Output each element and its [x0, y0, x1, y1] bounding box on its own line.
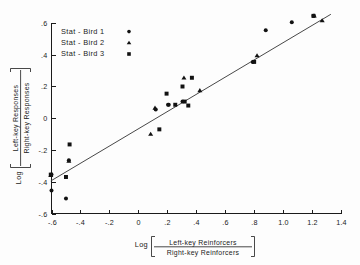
y-tick-label: .4 [41, 51, 47, 60]
data-point-square [173, 103, 177, 107]
data-point-circle [264, 28, 268, 32]
data-point-triangle [148, 132, 153, 136]
x-tick-label: .6 [222, 218, 228, 227]
data-point-square [181, 85, 185, 89]
legend-label: Stat - Bird 2 [61, 38, 105, 47]
x-tick-label: 1.2 [307, 218, 318, 227]
y-tick-label: -.4 [39, 178, 48, 187]
legend-label: Stat - Bird 1 [61, 27, 105, 36]
y-tick-label: -.6 [39, 210, 48, 219]
data-point-circle [166, 103, 170, 107]
x-tick-label: 1.4 [336, 218, 347, 227]
x-tick-label: -.6 [48, 218, 57, 227]
x-tick-label: .2 [164, 218, 170, 227]
x-tick-label: -.2 [105, 218, 114, 227]
data-point-square [312, 14, 316, 18]
legend: Stat - Bird 1Stat - Bird 2Stat - Bird 3 [61, 27, 131, 58]
legend-marker-circle [127, 30, 131, 34]
y-axis-numerator: Left-key Responses [12, 85, 20, 152]
data-point-circle [50, 188, 54, 192]
data-point-triangle [152, 106, 157, 110]
data-point-square [157, 127, 161, 131]
scatter-plot-figure: -.6-.4-.20.2.4.6.81.01.21.4 -.6-.4-.20.2… [0, 0, 360, 265]
legend-label: Stat - Bird 3 [61, 49, 105, 58]
x-tick-label: 0 [136, 218, 140, 227]
y-axis-tick-labels: -.6-.4-.20.2.4.6 [39, 19, 48, 219]
data-point-triangle [255, 53, 260, 57]
data-point-square [183, 100, 187, 104]
x-tick-label: .4 [193, 218, 199, 227]
data-point-square [186, 104, 190, 108]
data-point-circle [290, 20, 294, 24]
data-point-square [190, 76, 194, 80]
x-tick-label: -.4 [76, 218, 85, 227]
data-point-square [68, 142, 72, 146]
y-axis-log-word: Log [14, 171, 23, 184]
y-tick-label: .2 [41, 82, 47, 91]
y-axis-ticks [52, 24, 56, 215]
y-tick-label: 0 [43, 114, 47, 123]
data-point-square [252, 60, 256, 64]
data-point-square [64, 175, 68, 179]
x-axis-ticks [53, 210, 342, 214]
x-axis-tick-labels: -.6-.4-.20.2.4.6.81.01.21.4 [48, 218, 347, 227]
x-axis-label: Log Left-key Reinforcers Right-key Reinf… [135, 237, 255, 258]
data-point-triangle [181, 75, 186, 79]
data-point-square [49, 173, 53, 177]
x-tick-label: 1.0 [278, 218, 289, 227]
x-axis-denominator: Right-key Reinforcers [167, 249, 240, 257]
y-tick-label: -.2 [39, 146, 48, 155]
y-axis-label: Log Left-key Responses Right-key Respons… [11, 69, 31, 185]
x-axis-numerator: Left-key Reinforcers [169, 239, 237, 247]
y-axis-denominator: Right-key Responses [23, 82, 31, 153]
plot-canvas: -.6-.4-.20.2.4.6.81.01.21.4 -.6-.4-.20.2… [0, 0, 360, 265]
legend-marker-square [127, 52, 131, 56]
x-tick-label: .8 [251, 218, 257, 227]
legend-marker-triangle [127, 41, 132, 45]
data-point-circle [64, 196, 68, 200]
x-axis-log-word: Log [135, 240, 148, 249]
data-point-square [165, 92, 169, 96]
data-point-triangle [197, 88, 202, 92]
y-tick-label: .6 [41, 19, 47, 28]
